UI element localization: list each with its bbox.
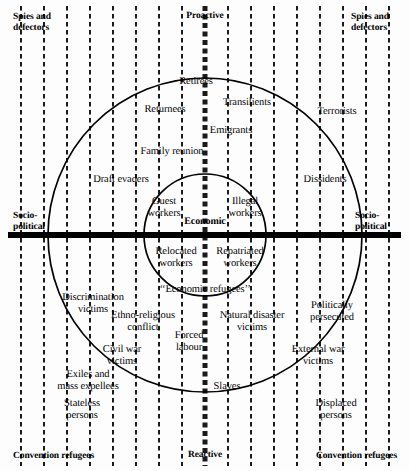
diagram-canvas: Proactive Reactive Socio- political Soci… bbox=[0, 0, 409, 471]
label-displaced-persons: Displaced persons bbox=[315, 398, 356, 422]
label-civil-war-victims: Civil war victims bbox=[103, 344, 141, 368]
label-slaves: Slaves bbox=[214, 381, 241, 393]
label-natural-disaster-victims: Natural disaster victims bbox=[220, 310, 285, 334]
label-external-war-victims: External war victims bbox=[292, 344, 345, 368]
label-economic-refugees: ‘‘Economic refugees’’ bbox=[159, 284, 250, 296]
label-returnees: Returnees bbox=[144, 104, 185, 116]
label-dissidents: Dissidents bbox=[304, 174, 347, 186]
label-retirees: Retirees bbox=[179, 76, 213, 88]
corner-label-bottom-right: Convention refugees bbox=[316, 451, 397, 462]
label-emigrants: Emigrants bbox=[210, 125, 252, 137]
label-forced-labour: Forced labour bbox=[175, 330, 204, 354]
label-repatriated-workers: Repatriated workers bbox=[216, 246, 263, 270]
label-illegal-workers: Illegal workers bbox=[228, 196, 261, 220]
corner-label-top-right: Spies and defectors bbox=[351, 12, 389, 33]
label-draft-evaders: Draft evaders bbox=[93, 174, 149, 186]
axis-label-top: Proactive bbox=[186, 11, 223, 22]
label-relocated-workers: Relocated workers bbox=[155, 246, 196, 270]
label-ethno-religious-conflict: Ethno-religious conflict bbox=[111, 310, 175, 334]
axis-label-bottom: Reactive bbox=[188, 450, 222, 461]
label-guest-workers: Guest workers bbox=[147, 196, 180, 220]
label-family-reunion: Family reunion bbox=[140, 146, 203, 158]
axis-label-center-economic: Economic bbox=[184, 216, 225, 227]
label-stateless-persons: Stateless persons bbox=[64, 398, 100, 422]
axis-label-left: Socio- political bbox=[13, 211, 45, 232]
corner-label-bottom-left: Convention refugees bbox=[13, 451, 94, 462]
axis-label-right: Socio- political bbox=[355, 211, 387, 232]
corner-label-top-left: Spies and defectors bbox=[13, 12, 51, 33]
label-politically-persecuted: Politically persecuted bbox=[310, 300, 354, 324]
label-terrorists: Terrorists bbox=[317, 106, 356, 118]
label-transilients: Transilients bbox=[223, 97, 271, 109]
label-exiles-mass-expellees: Exiles and mass expellees bbox=[57, 369, 118, 393]
